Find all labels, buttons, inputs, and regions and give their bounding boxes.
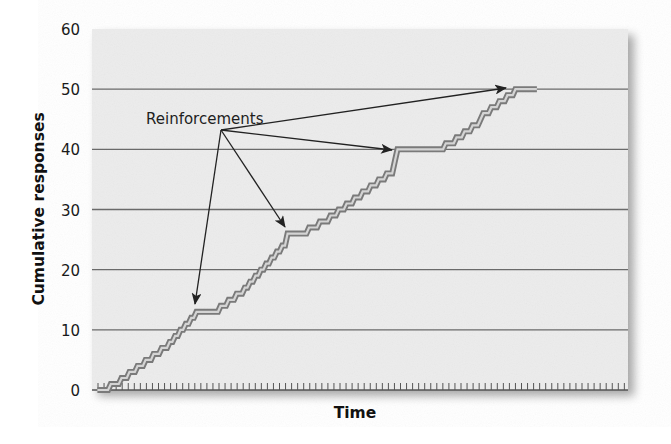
y-tick-label: 50 bbox=[61, 81, 80, 99]
y-tick-label: 30 bbox=[61, 202, 80, 220]
x-axis-label: Time bbox=[334, 404, 377, 422]
y-tick-label: 60 bbox=[61, 21, 80, 39]
cumulative-record-chart: 0102030405060 Reinforcements Cumulative … bbox=[0, 0, 671, 444]
y-tick-label: 10 bbox=[61, 322, 80, 340]
y-tick-label: 40 bbox=[61, 141, 80, 159]
y-tick-label: 20 bbox=[61, 262, 80, 280]
reinforcements-annotation: Reinforcements bbox=[146, 110, 264, 128]
y-axis-label: Cumulative responses bbox=[30, 112, 48, 305]
y-axis-tick-labels: 0102030405060 bbox=[61, 21, 80, 400]
y-tick-label: 0 bbox=[70, 382, 80, 400]
